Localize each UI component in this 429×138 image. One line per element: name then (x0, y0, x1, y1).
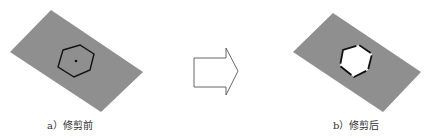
caption-before-trim: a）修剪前 (47, 117, 93, 132)
plate-b-with-hole (293, 13, 421, 112)
caption-after-trim: b）修剪后 (333, 117, 379, 132)
hexagon-center-point (75, 60, 78, 63)
block-arrow-right-icon (194, 48, 238, 95)
panel-b-after-trim (293, 13, 421, 112)
panel-a-before-trim (10, 10, 143, 112)
